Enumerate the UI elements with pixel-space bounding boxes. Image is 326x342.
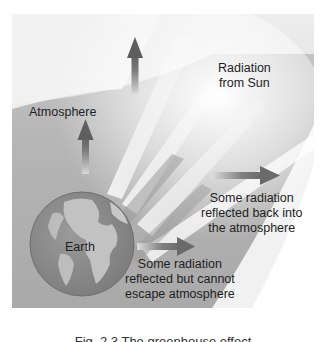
label-earth: Earth — [65, 240, 95, 255]
label-line: the atmosphere — [201, 221, 302, 236]
label-line: from Sun — [218, 76, 271, 91]
label-line: reflected but cannot — [125, 272, 235, 287]
figure-caption: Fig. 2.3 The greenhouse effect — [0, 330, 326, 342]
label-line: Radiation — [218, 61, 271, 76]
label-reflected-back: Some radiation reflected back into the a… — [201, 191, 302, 236]
greenhouse-diagram: Radiation from Sun Atmosphere Earth Some… — [12, 14, 314, 308]
label-radiation-from-sun: Radiation from Sun — [218, 61, 271, 91]
label-line: reflected back into — [201, 206, 302, 221]
label-line: Some radiation — [125, 257, 235, 272]
label-reflected-trapped: Some radiation reflected but cannot esca… — [125, 257, 235, 302]
label-line: Some radiation — [201, 191, 302, 206]
label-line: escape atmosphere — [125, 287, 235, 302]
label-atmosphere: Atmosphere — [29, 105, 96, 120]
